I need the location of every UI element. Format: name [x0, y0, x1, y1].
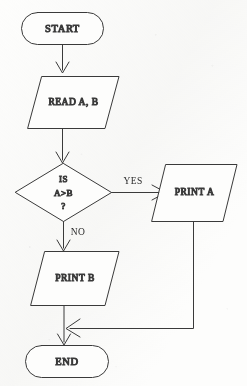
node-end[interactable]: END [26, 346, 109, 378]
decision-label-line-2: A>B [54, 188, 73, 198]
edge-decision-to-print-b [57, 222, 70, 252]
print-b-label: PRINT B [55, 273, 95, 283]
node-print-b[interactable]: PRINT B [31, 252, 119, 306]
node-start[interactable]: START [22, 13, 104, 45]
read-label: READ A, B [48, 97, 98, 107]
start-label: START [45, 23, 80, 34]
node-print-a[interactable]: PRINT A [152, 165, 237, 222]
edge-label-yes: YES [123, 176, 142, 186]
flowchart-canvas: START READ A, B IS A>B ? [0, 0, 247, 386]
decision-label-line-3: ? [61, 201, 65, 211]
node-read[interactable]: READ A, B [28, 77, 119, 129]
flowchart-page: START READ A, B IS A>B ? [0, 0, 247, 386]
node-decision[interactable]: IS A>B ? [16, 164, 112, 222]
decision-label-line-1: IS [59, 174, 68, 184]
edge-start-to-read [56, 45, 69, 73]
end-label: END [55, 356, 78, 367]
edge-read-to-decision [56, 129, 69, 164]
edge-label-no: NO [71, 227, 86, 237]
print-a-label: PRINT A [175, 187, 215, 197]
edge-print-b-to-end [58, 306, 71, 346]
